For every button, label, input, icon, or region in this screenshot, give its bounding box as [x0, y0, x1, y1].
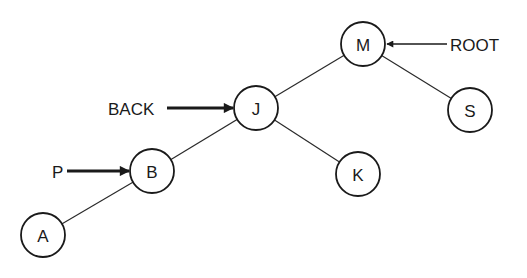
pointer-p-label: P: [52, 163, 63, 182]
pointer-back: BACK: [108, 100, 233, 119]
tree-diagram: M J S B K A ROOT BACK P: [0, 0, 527, 278]
node-a: A: [21, 213, 65, 257]
edges: [43, 44, 470, 235]
pointer-root-label: ROOT: [450, 36, 499, 55]
node-j: J: [234, 86, 278, 130]
node-k-label: K: [352, 166, 364, 185]
node-k: K: [336, 152, 380, 196]
pointer-p: P: [52, 163, 129, 182]
node-j-label: J: [252, 100, 261, 119]
node-m-label: M: [356, 36, 370, 55]
pointer-back-label: BACK: [108, 100, 155, 119]
node-b: B: [130, 149, 174, 193]
node-a-label: A: [37, 227, 49, 246]
node-m: M: [341, 22, 385, 66]
node-s-label: S: [464, 102, 475, 121]
node-b-label: B: [146, 163, 157, 182]
node-s: S: [448, 88, 492, 132]
pointer-root: ROOT: [387, 36, 499, 55]
